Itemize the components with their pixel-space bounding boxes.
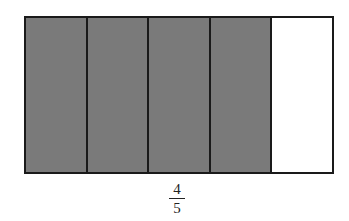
bar-part-1-shaded	[26, 18, 86, 172]
fraction-bar	[24, 16, 334, 174]
fraction-denominator: 5	[166, 200, 188, 215]
bar-part-3-shaded	[147, 18, 209, 172]
bar-part-2-shaded	[86, 18, 148, 172]
bar-part-5-empty	[270, 18, 332, 172]
fraction-numerator: 4	[166, 182, 188, 197]
fraction-label: 4 5	[166, 182, 188, 215]
fraction-line	[169, 198, 185, 199]
bar-part-4-shaded	[209, 18, 271, 172]
